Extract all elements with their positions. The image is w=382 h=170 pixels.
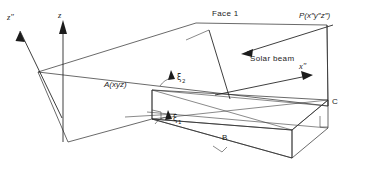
solar-beam-geometry-figure: z″ z: [0, 0, 382, 170]
face-1-label: Face 1: [212, 9, 239, 18]
point-a-label: A(xyz): [103, 80, 127, 89]
x-double-prime-axis-label: x″: [298, 61, 307, 71]
angle-xi-2-marker: [160, 70, 175, 86]
x-double-prime-axis: [215, 71, 313, 95]
p-to-c-vertical: [327, 25, 328, 106]
right-angle-marker-b: [213, 146, 227, 152]
right-angle-marker-slab-left: [152, 110, 161, 119]
xi-2-arrowhead: [168, 70, 175, 80]
point-b-label: B: [222, 133, 228, 142]
angle-xi-2-label: ξ: [177, 73, 181, 82]
solar-beam-label: Solar beam: [250, 54, 294, 63]
z-axis-label: z: [57, 10, 62, 20]
point-c-label: C: [332, 97, 338, 106]
angle-xi-2-subscript: 2: [182, 78, 186, 84]
plane-left-lower-edge: [38, 72, 152, 142]
x-double-prime-arrowhead: [301, 71, 313, 80]
z-double-prime-arrowhead: [16, 31, 26, 42]
right-angle-marker-c: [320, 116, 328, 127]
slab-diagonal-traces: [147, 90, 328, 130]
slab-front-face: [152, 100, 328, 158]
xi-1-arrowhead: [165, 110, 172, 120]
inclined-face-plane: [38, 23, 328, 106]
diagram-canvas: z″ z: [0, 0, 382, 170]
angle-xi-1-subscript: 1: [178, 119, 182, 125]
z-arrowhead: [59, 20, 67, 34]
z-double-prime-axis-label: z″: [6, 12, 14, 22]
angle-xi-1-label: ξ: [173, 114, 177, 123]
point-p-label: P(x″y″z″): [299, 11, 330, 20]
face-1-leader-line: [186, 30, 209, 40]
